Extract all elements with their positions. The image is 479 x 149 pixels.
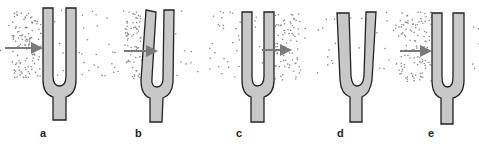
tuning-fork-c xyxy=(242,12,274,122)
panel-label-a: a xyxy=(40,127,46,139)
panel-label-c: c xyxy=(236,127,242,139)
tuning-fork-e xyxy=(432,13,464,124)
panel-label-e: e xyxy=(428,127,434,139)
panel-label-b: b xyxy=(135,127,142,139)
tuning-fork-d xyxy=(337,12,376,122)
tuning-fork-a xyxy=(43,8,76,120)
tuning-fork-b xyxy=(141,10,174,122)
panel-label-d: d xyxy=(337,127,344,139)
tuning-fork-diagram: a b c d e xyxy=(0,0,479,149)
